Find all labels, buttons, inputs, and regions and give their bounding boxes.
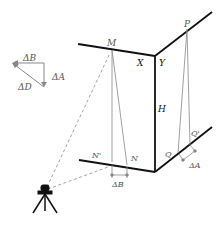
- top-left-edge: [78, 44, 155, 56]
- bottom-left-edge: [79, 160, 155, 172]
- building-frame: [78, 12, 212, 172]
- point-q-prime-label: Q': [191, 129, 200, 138]
- axis-x-label: X: [136, 58, 144, 68]
- diagram-canvas: ΔB ΔA ΔD: [0, 0, 224, 227]
- building-verticality-diagram: ΔB ΔA ΔD: [0, 0, 224, 227]
- bottom-right-edge: [155, 127, 212, 172]
- delta-a-label: ΔA: [188, 161, 201, 170]
- vector-delta-b-label: ΔB: [22, 53, 36, 63]
- point-n-prime-label: N': [91, 151, 101, 160]
- point-p-label: P: [183, 19, 191, 29]
- theodolite-icon: [33, 185, 57, 213]
- vector-delta-d-label: ΔD: [17, 82, 32, 92]
- delta-b-label: ΔB: [111, 180, 124, 189]
- point-n-label: N: [130, 154, 139, 163]
- vector-triangle: ΔB ΔA ΔD: [12, 53, 65, 92]
- vector-delta-a-label: ΔA: [51, 72, 65, 82]
- projection-lines: [112, 29, 190, 165]
- axis-y-label: Y: [159, 58, 166, 68]
- point-q-label: Q: [165, 150, 172, 159]
- height-h-label: H: [157, 104, 166, 114]
- point-m-label: M: [106, 38, 117, 48]
